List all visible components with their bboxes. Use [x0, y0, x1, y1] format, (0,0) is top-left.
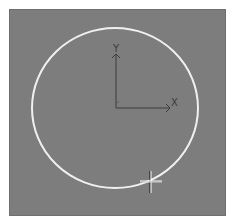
x-axis — [116, 104, 170, 112]
drawing-canvas[interactable]: Y X — [0, 0, 233, 224]
y-axis-label: Y — [112, 43, 120, 54]
crosshair-cursor-icon — [140, 171, 162, 193]
x-axis-label: X — [171, 97, 178, 108]
y-axis — [112, 54, 120, 108]
